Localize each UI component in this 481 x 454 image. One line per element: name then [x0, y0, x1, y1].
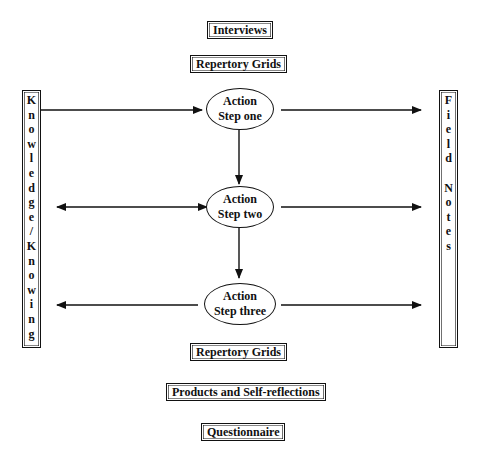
repertory-grids-top-box: Repertory Grids [190, 55, 287, 73]
letter: n [23, 108, 40, 123]
letter: t [440, 210, 457, 225]
letter: g [23, 195, 40, 210]
step-label-line2: Step three [205, 304, 275, 319]
letter: e [440, 224, 457, 239]
letter: e [440, 122, 457, 137]
letter: d [23, 181, 40, 196]
letter: K [23, 239, 40, 254]
letter: n [23, 254, 40, 269]
letter: l [440, 137, 457, 152]
interviews-box: Interviews [207, 21, 273, 39]
letter: F [440, 93, 457, 108]
letter [440, 166, 457, 181]
letter: w [23, 283, 40, 298]
step-label-line2: Step two [207, 207, 273, 222]
letter: N [440, 181, 457, 196]
field-notes-column: F i e l d N o t e s [439, 90, 458, 348]
products-self-reflections-box: Products and Self-reflections [166, 383, 326, 401]
letter: o [23, 268, 40, 283]
letter: o [440, 195, 457, 210]
letter: l [23, 151, 40, 166]
letter: K [23, 93, 40, 108]
letter: e [23, 210, 40, 225]
letter: s [440, 239, 457, 254]
letter: n [23, 312, 40, 327]
letter: d [440, 151, 457, 166]
step-label-line1: Action [205, 289, 275, 304]
repertory-grids-bottom-box: Repertory Grids [190, 343, 287, 361]
letter: o [23, 122, 40, 137]
action-step-two: Action Step two [206, 186, 274, 228]
action-step-one: Action Step one [206, 88, 274, 130]
letter: w [23, 137, 40, 152]
letter: i [23, 297, 40, 312]
step-label-line1: Action [207, 94, 273, 109]
action-step-three: Action Step three [204, 283, 276, 325]
letter: g [23, 327, 40, 342]
step-label-line2: Step one [207, 109, 273, 124]
step-label-line1: Action [207, 192, 273, 207]
letter: i [440, 108, 457, 123]
letter: / [23, 224, 40, 239]
letter: e [23, 166, 40, 181]
questionnaire-box: Questionnaire [201, 423, 285, 441]
knowledge-knowing-column: K n o w l e d g e / K n o w i n g [22, 90, 41, 348]
